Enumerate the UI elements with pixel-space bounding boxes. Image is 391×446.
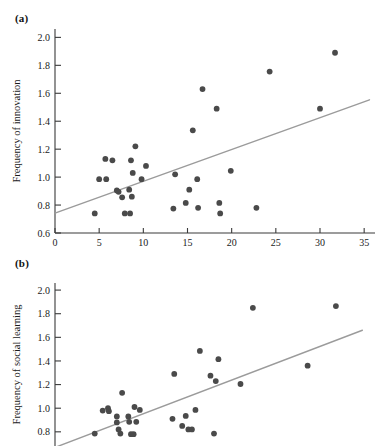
data-point (125, 414, 131, 420)
data-point (110, 157, 116, 163)
data-point (106, 408, 112, 414)
data-point (179, 423, 185, 429)
data-point (170, 416, 176, 422)
data-point (195, 205, 201, 211)
y-axis-tick-label: 0.8 (38, 200, 51, 211)
data-point (317, 106, 323, 112)
x-axis-tick-label: 15 (183, 237, 193, 248)
y-axis-tick-label: 1.0 (38, 172, 51, 183)
x-axis-tick-label: 5 (97, 237, 102, 248)
data-point (119, 194, 125, 200)
y-axis-tick-label: 1.2 (38, 144, 51, 155)
data-point (122, 211, 128, 217)
data-point (139, 176, 145, 182)
data-point (172, 171, 178, 177)
data-point (267, 69, 273, 75)
y-axis-tick-label: 1.8 (38, 308, 51, 319)
data-point (137, 407, 143, 413)
y-axis-tick-label: 2.0 (38, 285, 51, 296)
data-point (238, 381, 244, 387)
data-point (190, 127, 196, 133)
data-point (216, 356, 222, 362)
data-point (193, 407, 199, 413)
data-point (213, 378, 219, 384)
data-point (183, 413, 189, 419)
y-axis-tick-label: 0.6 (38, 228, 51, 239)
data-point (114, 414, 120, 420)
y-axis-tick-label: 1.6 (38, 332, 51, 343)
data-point (250, 305, 256, 311)
data-point (332, 50, 338, 56)
figure-container: (a) 0.60.81.01.21.41.61.82.0051015202530… (0, 0, 391, 446)
data-point (96, 176, 102, 182)
data-point (217, 211, 223, 217)
trend-line (55, 100, 369, 213)
data-point (130, 170, 136, 176)
panel-b: (b) 0.81.01.21.41.61.82.0Frequency of so… (0, 255, 391, 446)
data-point (189, 427, 195, 433)
data-point (194, 176, 200, 182)
data-point (117, 431, 123, 437)
y-axis-tick-label: 1.4 (38, 356, 51, 367)
panel-a: (a) 0.60.81.01.21.41.61.82.0051015202530… (0, 0, 391, 255)
y-axis-tick-label: 1.6 (38, 88, 51, 99)
y-axis-tick-label: 0.8 (38, 426, 51, 437)
scatter-plot-a: 0.60.81.01.21.41.61.82.005101520253035Ex… (0, 0, 391, 255)
data-point (197, 348, 203, 354)
y-axis-tick-label: 1.0 (38, 403, 51, 414)
y-axis-tick-label: 1.4 (38, 116, 51, 127)
data-point (132, 404, 138, 410)
x-axis-tick-label: 30 (315, 237, 325, 248)
data-point (333, 303, 339, 309)
y-axis-tick-label: 2.0 (38, 32, 51, 43)
data-point (171, 371, 177, 377)
x-axis-tick-label: 10 (138, 237, 148, 248)
data-point (183, 200, 189, 206)
data-point (129, 194, 135, 200)
data-point (92, 211, 98, 217)
data-point (186, 187, 192, 193)
data-point (100, 408, 106, 414)
data-point (254, 205, 260, 211)
x-axis-tick-label: 25 (271, 237, 281, 248)
data-point (103, 176, 109, 182)
trend-line (55, 330, 362, 446)
data-point (170, 206, 176, 212)
data-point (126, 419, 132, 425)
y-axis-tick-label: 1.2 (38, 379, 51, 390)
data-point (143, 163, 149, 169)
data-point (132, 143, 138, 149)
data-point (128, 157, 134, 163)
y-axis-title: Frequency of innovation (11, 79, 22, 183)
data-point (200, 86, 206, 92)
data-point (305, 363, 311, 369)
y-axis-tick-label: 1.8 (38, 60, 51, 71)
scatter-plot-b: 0.81.01.21.41.61.82.0Frequency of social… (0, 255, 391, 446)
data-point (116, 189, 122, 195)
data-point (133, 419, 139, 425)
x-axis-tick-label: 35 (359, 237, 369, 248)
x-axis-tick-label: 20 (227, 237, 237, 248)
data-point (216, 200, 222, 206)
data-point (131, 431, 137, 437)
data-point (211, 431, 217, 437)
data-point (119, 390, 125, 396)
data-point (114, 419, 120, 425)
data-point (127, 211, 133, 217)
data-point (92, 431, 98, 437)
data-point (214, 106, 220, 112)
x-axis-tick-label: 0 (53, 237, 58, 248)
y-axis-title: Frequency of social learning (11, 304, 22, 425)
data-point (208, 373, 214, 379)
data-point (228, 168, 234, 174)
data-point (102, 156, 108, 162)
data-point (126, 187, 132, 193)
